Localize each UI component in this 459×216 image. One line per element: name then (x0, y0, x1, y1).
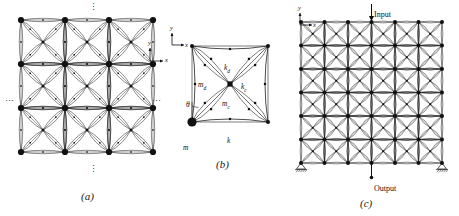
panel-c-caption: (c) (360, 197, 372, 209)
panel-c-lattice (292, 2, 452, 202)
panel-b-caption: (b) (216, 158, 229, 170)
panel-b-diagonal-spring-label: kd (224, 63, 230, 74)
panel-c-x-axis-label: x (313, 21, 316, 28)
panel-b-diagonal-mass-label: md (198, 80, 206, 91)
panel-c-y-axis-label: y (298, 4, 301, 11)
panel-a-y-axis-label: y (148, 39, 151, 46)
panel-a-ellipsis-right: ⋯ (152, 96, 163, 106)
panel-b-center-spring-label: kc (241, 82, 247, 93)
panel-a-caption: (a) (81, 190, 94, 202)
panel-b-center-mass-label: mc (222, 99, 230, 110)
panel-a-ellipsis-left: ⋯ (5, 96, 16, 106)
panel-c-axis-indicator (296, 8, 320, 30)
panel-b-edge-spring-label: k (227, 136, 230, 145)
figure-root: ⋮ ⋮ ⋯ ⋯ y x (a) y x m md mc k kd kc θ (b… (0, 0, 459, 216)
panel-b-angle-label: θ (186, 100, 190, 109)
panel-a-ellipsis-top: ⋮ (89, 6, 98, 10)
panel-b-corner-mass-label: m (183, 143, 188, 152)
panel-b-axis-indicator (168, 28, 192, 50)
panel-b-x-axis-label: x (185, 41, 188, 48)
panel-c-output-label: Output (374, 184, 396, 193)
panel-a-ellipsis-bottom: ⋮ (89, 168, 98, 172)
panel-b-y-axis-label: y (170, 24, 173, 31)
panel-a-x-axis-label: x (165, 56, 168, 63)
panel-c-input-label: Input (374, 10, 391, 19)
